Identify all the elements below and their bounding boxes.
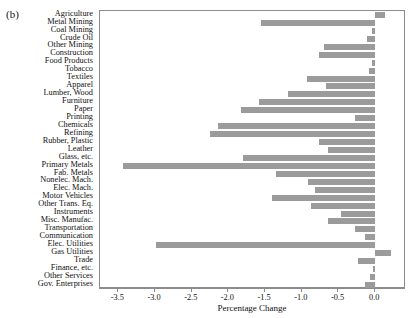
bar [276, 171, 375, 177]
bar [156, 242, 375, 248]
x-axis-title: Percentage Change [99, 303, 405, 313]
x-tick [117, 288, 118, 292]
bar [367, 36, 375, 42]
bar [308, 179, 376, 185]
category-label: Gov. Enterprises [0, 280, 93, 288]
x-tick-label: -3.0 [134, 293, 174, 302]
bar [311, 203, 376, 209]
x-tick-label: -0.5 [317, 293, 357, 302]
bar [372, 28, 376, 34]
bar [243, 155, 375, 161]
x-tick-label: -1.5 [244, 293, 284, 302]
bar [370, 274, 375, 280]
bar [341, 211, 375, 217]
bar [261, 20, 375, 26]
x-tick-label: 0.0 [354, 293, 394, 302]
bar [210, 131, 375, 137]
bar [324, 44, 375, 50]
bar [288, 91, 375, 97]
bar [372, 60, 376, 66]
bars-container [100, 11, 404, 287]
x-tick-label: -2.5 [171, 293, 211, 302]
bar [307, 76, 375, 82]
bar [319, 52, 375, 58]
x-tick-label: -1.0 [281, 293, 321, 302]
bar [355, 115, 376, 121]
x-tick-label: -2.0 [207, 293, 247, 302]
bar [375, 250, 391, 256]
bar [123, 163, 375, 169]
bar [373, 266, 375, 272]
bar [328, 147, 375, 153]
bar [218, 123, 375, 129]
bar [365, 234, 375, 240]
figure-panel-b: (b) AgricultureMetal MiningCoal MiningCr… [0, 0, 410, 318]
bar [241, 107, 375, 113]
x-tick [191, 288, 192, 292]
bar [369, 68, 376, 74]
plot-area [99, 10, 405, 288]
bar [355, 226, 375, 232]
bar [326, 83, 375, 89]
category-axis-labels: AgricultureMetal MiningCoal MiningCrude … [0, 10, 96, 288]
x-tick [337, 288, 338, 292]
x-tick-label: -3.5 [97, 293, 137, 302]
bar [259, 99, 376, 105]
x-tick [374, 288, 375, 292]
x-axis-line [99, 288, 405, 289]
x-tick [227, 288, 228, 292]
bar [272, 195, 375, 201]
x-tick [301, 288, 302, 292]
x-tick [154, 288, 155, 292]
bar [375, 12, 385, 18]
bar [319, 139, 376, 145]
x-tick [264, 288, 265, 292]
bar [315, 187, 375, 193]
bar [328, 218, 375, 224]
bar [358, 258, 376, 264]
